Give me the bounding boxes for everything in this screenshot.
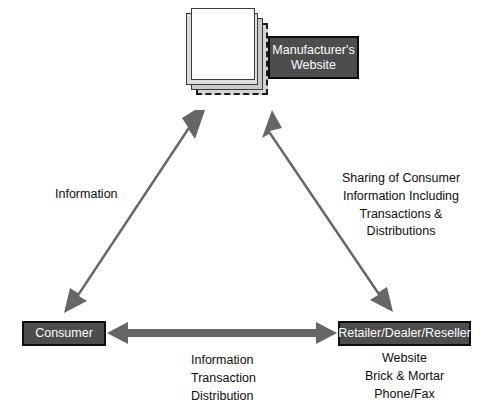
edge-label-consumer-to-retailer: Information Transaction Distribution [191, 352, 256, 405]
edge-label-consumer-to-manufacturer: Information [55, 186, 118, 204]
retailer-channels-list: Website Brick & Mortar Phone/Fax [338, 350, 471, 403]
node-manufacturer-website: Manufacturer's Website [268, 36, 359, 79]
document-page-front [191, 8, 255, 80]
consumer-retailer-arrow [107, 322, 337, 344]
edge-label-manufacturer-to-retailer: Sharing of Consumer Information Includin… [331, 170, 471, 241]
node-consumer: Consumer [22, 321, 106, 346]
consumer-manufacturer-arrow [64, 110, 205, 313]
node-retailer-dealer-reseller: Retailer/Dealer/Reseller [338, 321, 471, 346]
flow-diagram-canvas: Manufacturer's Website Consumer Retailer… [0, 0, 486, 410]
